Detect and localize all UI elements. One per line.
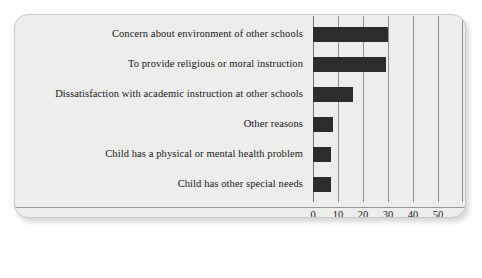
category-label: Child has other special needs (178, 169, 303, 199)
bar-row (313, 109, 333, 139)
x-tick-label-30: 30 (383, 209, 394, 218)
screenshot-stage: Concern about environment of other schoo… (0, 0, 482, 278)
bar-row (313, 139, 331, 169)
category-label: Child has a physical or mental health pr… (105, 139, 303, 169)
bar (313, 57, 386, 72)
category-label: Concern about environment of other schoo… (112, 19, 303, 49)
bar-row (313, 49, 386, 79)
bar-row (313, 169, 331, 199)
x-tick-label-40: 40 (408, 209, 419, 218)
x-tick-label-0: 0 (310, 209, 315, 218)
axis-separator-rule (15, 207, 465, 208)
x-axis-tick-labels: 01020304050 (313, 209, 466, 218)
bar-group (313, 16, 463, 202)
chart-card: Concern about environment of other schoo… (14, 14, 466, 218)
bar (313, 117, 333, 132)
x-tick-label-20: 20 (358, 209, 369, 218)
plot-area (313, 16, 463, 202)
bar (313, 177, 331, 192)
bar (313, 27, 388, 42)
bar (313, 87, 353, 102)
bar-row (313, 19, 388, 49)
category-label: Other reasons (244, 109, 303, 139)
bar-row (313, 79, 353, 109)
x-tick-label-50: 50 (433, 209, 444, 218)
category-label-list: Concern about environment of other schoo… (15, 16, 309, 202)
x-tick-label-10: 10 (333, 209, 344, 218)
bar (313, 147, 331, 162)
category-label: Dissatisfaction with academic instructio… (55, 79, 303, 109)
chart-card-inner: Concern about environment of other schoo… (15, 15, 465, 217)
category-label: To provide religious or moral instructio… (128, 49, 303, 79)
